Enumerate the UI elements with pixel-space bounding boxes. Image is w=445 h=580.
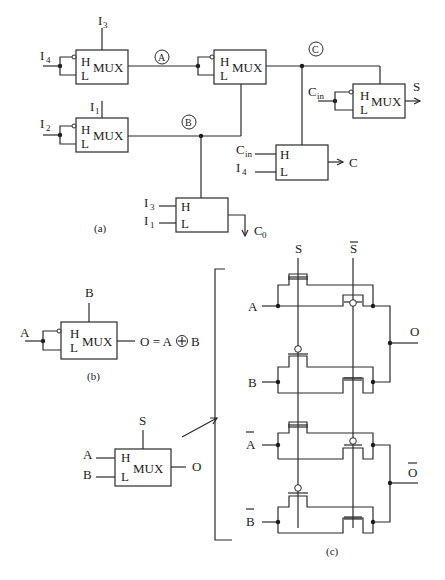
node-b-label: B	[185, 117, 192, 128]
svg-text:3: 3	[150, 202, 155, 212]
svg-text:L: L	[181, 216, 189, 231]
svg-text:L: L	[81, 136, 89, 151]
mux3: H L MUX	[198, 50, 266, 84]
circuit-diagram: I 3 H L MUX I 4 A H L MUX	[0, 0, 445, 580]
svg-text:MUX: MUX	[232, 60, 263, 75]
part-a-full-adder: I 3 H L MUX I 4 A H L MUX	[40, 13, 420, 240]
svg-text:H: H	[181, 199, 190, 214]
sum-output-label: S	[413, 79, 420, 94]
svg-text:A: A	[83, 447, 93, 462]
svg-text:MUX: MUX	[93, 60, 124, 75]
svg-text:A: A	[20, 325, 30, 340]
svg-text:B: B	[246, 514, 255, 529]
mux5-carry: C in I 4 H L C	[236, 142, 358, 180]
svg-text:O: O	[408, 465, 417, 480]
part-a-label: (a)	[94, 222, 107, 235]
part-c-transmission-gate-mux: S A B H L MUX O S S A	[83, 241, 419, 558]
svg-text:4: 4	[242, 167, 247, 177]
svg-text:I: I	[90, 99, 94, 114]
svg-text:3: 3	[103, 20, 108, 30]
svg-text:S: S	[295, 241, 302, 256]
svg-text:H: H	[121, 450, 130, 465]
svg-text:S: S	[139, 413, 146, 428]
svg-text:L: L	[220, 68, 228, 83]
part-c-label: (c)	[326, 545, 339, 558]
mux2: I 1 I 2 H L MUX	[40, 99, 128, 152]
svg-text:H: H	[220, 54, 229, 69]
svg-text:H: H	[360, 88, 369, 103]
tg-stage-b-bar: B	[246, 485, 375, 533]
svg-text:1: 1	[150, 220, 155, 230]
svg-text:MUX: MUX	[82, 334, 113, 349]
svg-text:MUX: MUX	[133, 461, 164, 476]
svg-text:A: A	[246, 437, 256, 452]
svg-text:B: B	[248, 375, 257, 390]
svg-text:A: A	[248, 299, 258, 314]
svg-text:MUX: MUX	[371, 94, 402, 109]
svg-text:H: H	[81, 122, 90, 137]
svg-text:in: in	[245, 149, 253, 159]
svg-text:H: H	[70, 326, 79, 341]
svg-text:L: L	[70, 340, 78, 355]
svg-text:H: H	[280, 147, 289, 162]
svg-text:S: S	[350, 241, 357, 256]
tg-stage-b: B	[248, 346, 375, 393]
svg-text:in: in	[317, 91, 325, 101]
tg-stage-a-bar: A	[246, 422, 375, 459]
xor-equation-right: B	[191, 334, 200, 349]
svg-text:I: I	[144, 213, 148, 228]
svg-text:2: 2	[46, 123, 51, 133]
svg-text:1: 1	[95, 106, 100, 116]
node-c-label: C	[312, 44, 319, 55]
tg-stage-a: A	[248, 274, 375, 314]
mux1-input-label: I	[40, 48, 44, 63]
mux1: I 3 H L MUX I 4	[40, 13, 128, 84]
svg-text:MUX: MUX	[93, 128, 124, 143]
svg-text:O: O	[192, 459, 201, 474]
part-b-xor: B A H L MUX O = A B (b)	[20, 285, 200, 383]
mux1-select-label: I	[98, 13, 102, 28]
svg-text:H: H	[81, 54, 90, 69]
svg-text:I: I	[236, 160, 240, 175]
svg-text:L: L	[121, 469, 129, 484]
node-a-label: A	[158, 52, 166, 63]
svg-text:L: L	[360, 102, 368, 117]
xor-equation-left: O = A	[140, 334, 173, 349]
carry-output-label: C	[349, 155, 358, 170]
mux4: C in H L MUX S	[308, 79, 420, 118]
svg-text:L: L	[280, 164, 288, 179]
svg-text:I: I	[40, 116, 44, 131]
svg-text:4: 4	[46, 55, 51, 65]
mux6-carry0: I 3 I 1 H L C 0	[144, 195, 267, 240]
svg-text:I: I	[144, 195, 148, 210]
svg-text:B: B	[85, 285, 94, 300]
svg-text:C: C	[236, 142, 245, 157]
mux4-input-label: C	[308, 84, 317, 99]
svg-text:B: B	[83, 467, 92, 482]
part-b-label: (b)	[87, 370, 100, 383]
svg-text:0: 0	[262, 230, 267, 240]
svg-text:O: O	[410, 324, 419, 339]
svg-text:L: L	[81, 68, 89, 83]
